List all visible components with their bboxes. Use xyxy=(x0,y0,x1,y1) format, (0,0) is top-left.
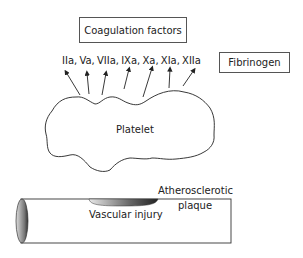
coagulation-factors-box: Coagulation factors xyxy=(79,17,187,43)
arrow-icon xyxy=(143,68,152,97)
factors-list: IIa, Va, VIIa, IXa, Xa, XIa, XIIa xyxy=(62,55,201,66)
arrow-icon xyxy=(87,73,89,94)
platelet-label: Platelet xyxy=(116,124,154,135)
arrow-icon xyxy=(66,72,80,95)
vascular-injury-label: Vascular injury xyxy=(89,209,163,220)
vessel-opening xyxy=(16,199,28,243)
plaque-label-line2: plaque xyxy=(178,200,212,211)
plaque-label-line1: Atherosclerotic xyxy=(158,185,233,196)
arrow-icon xyxy=(102,73,106,95)
coagulation-factors-label: Coagulation factors xyxy=(84,25,182,36)
fibrinogen-label: Fibrinogen xyxy=(228,57,280,68)
arrow-icon xyxy=(183,70,194,86)
atherosclerotic-plaque xyxy=(89,199,158,206)
arrow-icon xyxy=(124,69,129,89)
arrow-icon xyxy=(169,69,170,88)
fibrinogen-box: Fibrinogen xyxy=(219,52,290,73)
